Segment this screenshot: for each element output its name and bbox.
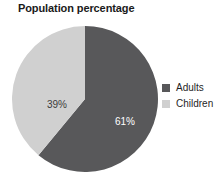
legend-label-adults: Adults xyxy=(176,83,204,93)
legend-swatch-adults-icon xyxy=(162,84,170,92)
pie-plot-area: 39% 61% xyxy=(11,25,159,173)
pie-slice-label-adults: 61% xyxy=(115,116,135,127)
chart-legend: Adults Children xyxy=(162,80,222,112)
legend-label-children: Children xyxy=(176,99,213,109)
legend-item-children[interactable]: Children xyxy=(162,96,222,112)
pie-slice-label-children: 39% xyxy=(47,99,67,110)
legend-item-adults[interactable]: Adults xyxy=(162,80,222,96)
chart-title: Population percentage xyxy=(18,2,134,14)
legend-swatch-children-icon xyxy=(162,100,170,108)
pie-slices xyxy=(12,26,158,172)
pie-svg xyxy=(11,25,159,173)
pie-chart-figure: Population percentage 39% 61% Adults Chi… xyxy=(0,0,222,178)
